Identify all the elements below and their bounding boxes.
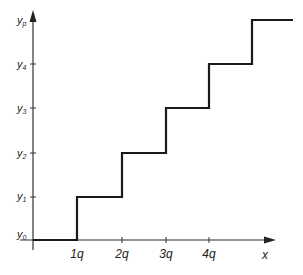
y-label-p: yp bbox=[16, 14, 27, 28]
step-function-diagram: y0 y1 y2 y3 y4 yp 1q 2q 3q 4q x bbox=[0, 0, 303, 275]
x-label-4q: 4q bbox=[202, 247, 216, 261]
y-label-4: y4 bbox=[16, 58, 27, 71]
x-label-3q: 3q bbox=[159, 247, 173, 261]
y-label-3: y3 bbox=[16, 102, 27, 115]
y-label-2: y2 bbox=[16, 147, 27, 160]
y-axis-labels: y0 y1 y2 y3 y4 yp bbox=[16, 14, 27, 241]
step-function-line bbox=[33, 20, 293, 240]
y-label-0: y0 bbox=[16, 228, 27, 241]
y-label-1: y1 bbox=[16, 190, 27, 203]
y-axis-arrow-icon bbox=[30, 10, 37, 22]
x-axis-labels: 1q 2q 3q 4q x bbox=[70, 247, 269, 262]
x-label-1q: 1q bbox=[70, 247, 84, 261]
x-axis-arrow-icon bbox=[264, 237, 276, 244]
y-axis bbox=[30, 10, 37, 250]
x-axis-label: x bbox=[261, 248, 269, 262]
x-label-2q: 2q bbox=[114, 247, 129, 261]
